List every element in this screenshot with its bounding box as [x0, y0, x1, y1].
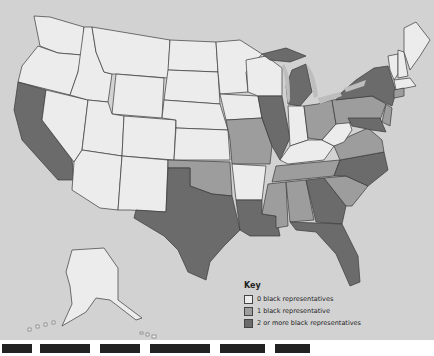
state-new-mexico [118, 156, 168, 212]
state-florida [290, 222, 360, 286]
legend-item-zero: 0 black representatives [244, 293, 361, 305]
legend-item-two-plus: 2 or more black representatives [244, 317, 361, 329]
legend-title: Key [244, 281, 361, 290]
aleutian-islands [28, 321, 55, 331]
legend-swatch-two-plus [244, 319, 253, 328]
state-arizona [72, 150, 122, 210]
legend-swatch-one [244, 307, 253, 316]
caption-fragment [150, 344, 210, 353]
state-kentucky [280, 140, 334, 164]
state-colorado [122, 116, 176, 160]
state-arkansas [232, 164, 266, 200]
caption-fragment [220, 344, 265, 353]
state-montana [92, 27, 170, 78]
legend-label: 0 black representatives [257, 295, 333, 303]
state-maine [404, 22, 430, 70]
state-connecticut [394, 88, 404, 98]
caption-fragment [40, 344, 90, 353]
state-north-dakota [168, 40, 218, 72]
us-map [0, 0, 434, 340]
map-legend: Key 0 black representatives 1 black repr… [244, 281, 361, 329]
state-wisconsin [246, 56, 282, 96]
legend-label: 2 or more black representatives [257, 319, 361, 327]
caption-fragment [100, 344, 140, 353]
state-massachusetts [394, 78, 416, 90]
legend-label: 1 black representative [257, 307, 330, 315]
caption-fragment [275, 344, 310, 353]
state-south-dakota [164, 70, 220, 104]
state-hawaii [140, 332, 156, 338]
legend-item-one: 1 black representative [244, 305, 361, 317]
state-kansas [174, 128, 230, 160]
legend-swatch-zero [244, 295, 253, 304]
state-alaska [62, 248, 142, 326]
caption-fragment [2, 344, 32, 353]
cropped-caption-strip [0, 341, 434, 356]
state-wyoming [112, 74, 164, 118]
state-iowa [220, 94, 262, 120]
map-figure: Key 0 black representatives 1 black repr… [0, 0, 434, 356]
